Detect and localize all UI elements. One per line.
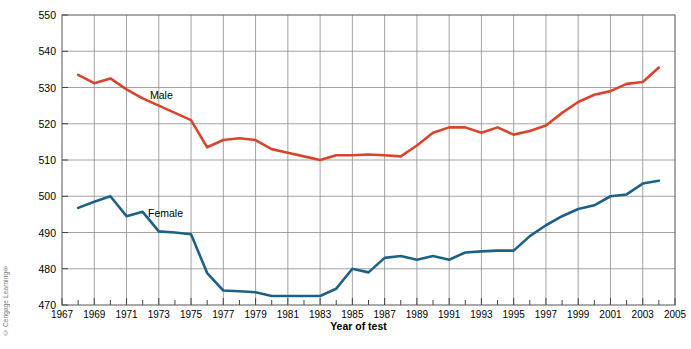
series-label-male: Male	[150, 89, 173, 101]
grid-lines	[62, 15, 675, 305]
sat-score-line-chart: © Cengage Learning® Mean math SAT score …	[0, 0, 691, 349]
plot-area	[0, 0, 691, 349]
data-series-layer	[78, 68, 659, 296]
series-label-female: Female	[148, 207, 183, 219]
series-line-female	[78, 181, 659, 296]
series-line-male	[78, 68, 659, 160]
